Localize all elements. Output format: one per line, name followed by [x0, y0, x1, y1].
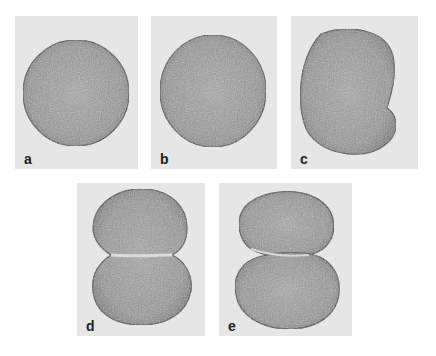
- panel-a: a: [15, 16, 138, 169]
- cell-divided-image: [219, 183, 352, 336]
- cell-sphere-image: [15, 16, 138, 169]
- panel-label-b: b: [160, 152, 169, 166]
- panel-label-e: e: [228, 319, 236, 333]
- cell-elongated-image: [291, 16, 418, 169]
- panel-c: c: [291, 16, 418, 169]
- panel-e: e: [219, 183, 352, 336]
- panel-b: b: [151, 16, 277, 169]
- cell-dumbbell-image: [77, 183, 205, 336]
- cell-sphere-image: [151, 16, 277, 169]
- panel-label-c: c: [300, 152, 308, 166]
- panel-label-d: d: [86, 319, 95, 333]
- panel-label-a: a: [24, 152, 32, 166]
- panel-d: d: [77, 183, 205, 336]
